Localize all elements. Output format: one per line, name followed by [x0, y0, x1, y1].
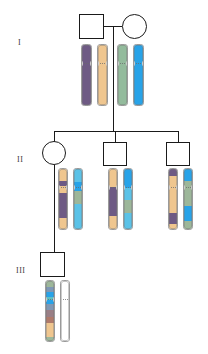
chromosome-band	[61, 281, 69, 341]
chromosome-I-2-b	[133, 44, 144, 106]
chromosome-II-2-b	[123, 168, 133, 230]
pedigree-figure: IIIIII	[0, 0, 208, 354]
chromosome-band	[74, 191, 82, 204]
chromosome-band	[184, 221, 192, 229]
chromosome-band	[124, 200, 132, 213]
drop-line-III-1	[54, 240, 55, 252]
chromosome-band	[82, 45, 91, 105]
chromosome-band	[74, 204, 82, 229]
individual-III-1[interactable]	[40, 252, 65, 277]
chromosome-band	[98, 45, 107, 105]
individual-II-3[interactable]	[166, 142, 190, 166]
chromosome-band	[124, 213, 132, 229]
generation-label-II: II	[17, 155, 23, 164]
descent-line-I	[113, 26, 114, 131]
centromere-marks	[82, 61, 91, 65]
chromosome-band	[184, 206, 192, 220]
chromosome-band	[184, 169, 192, 181]
centromere-marks	[98, 61, 107, 65]
chromosome-II-1-b	[73, 168, 83, 230]
centromere-marks	[109, 185, 117, 189]
individual-II-2[interactable]	[103, 142, 127, 166]
centromere-marks	[59, 185, 67, 189]
centromere-marks	[61, 297, 69, 301]
chromosome-band	[169, 169, 177, 176]
chromosome-band	[109, 187, 117, 216]
centromere-marks	[184, 185, 192, 189]
chromosome-band	[46, 310, 54, 317]
chromosome-I-1-a	[81, 44, 92, 106]
chromosome-band	[169, 224, 177, 229]
chromosome-band	[169, 213, 177, 224]
chromosome-II-3-a	[168, 168, 178, 230]
chromosome-band	[134, 45, 143, 105]
chromosome-band	[59, 218, 67, 229]
generation-label-I: I	[18, 38, 21, 47]
drop-line-II-2	[115, 131, 116, 142]
chromosome-I-1-b	[97, 44, 108, 106]
centromere-marks	[134, 61, 143, 65]
chromosome-band	[59, 169, 67, 181]
generation-label-III: III	[16, 266, 26, 275]
chromosome-band	[109, 216, 117, 229]
chromosome-II-1-a	[58, 168, 68, 230]
chromosome-I-2-a	[117, 44, 128, 106]
centromere-marks	[124, 185, 132, 189]
chromosome-band	[46, 337, 54, 341]
individual-I-2[interactable]	[122, 14, 147, 39]
centromere-marks	[46, 297, 54, 301]
individual-II-1[interactable]	[42, 141, 66, 165]
chromosome-II-3-b	[183, 168, 193, 230]
chromosome-band	[46, 323, 54, 337]
chromosome-III-1-a	[45, 280, 55, 342]
chromosome-band	[59, 193, 67, 218]
chromosome-band	[74, 169, 82, 182]
chromosome-band	[169, 176, 177, 213]
drop-line-II-3	[178, 131, 179, 142]
individual-I-1[interactable]	[79, 14, 104, 39]
centromere-marks	[118, 61, 127, 65]
chromosome-band	[118, 45, 127, 105]
chromosome-band	[109, 169, 117, 187]
chromosome-III-1-b	[60, 280, 70, 342]
chromosome-band	[124, 188, 132, 200]
chromosome-II-2-a	[108, 168, 118, 230]
descent-line-II-1	[54, 165, 55, 252]
centromere-marks	[169, 185, 177, 189]
centromere-marks	[74, 185, 82, 189]
